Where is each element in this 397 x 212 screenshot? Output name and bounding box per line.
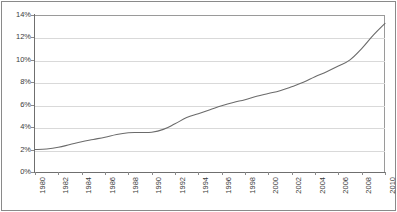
x-axis-tick-mark — [362, 172, 363, 175]
x-axis-tick-mark — [105, 172, 106, 175]
x-axis-tick-mark — [58, 172, 59, 175]
y-axis-tick-mark — [31, 15, 34, 16]
x-axis-tick-mark — [35, 172, 36, 175]
x-axis-tick-mark — [245, 172, 246, 175]
x-axis-tick-mark — [268, 172, 269, 175]
y-axis-tick-mark — [31, 172, 34, 173]
x-axis-tick-mark — [315, 172, 316, 175]
x-axis-tick-mark — [175, 172, 176, 175]
x-axis-tick-mark — [338, 172, 339, 175]
x-axis-tick-mark — [82, 172, 83, 175]
chart-screenshot: 14%12%10%8%6%4%2%0% 19801982198419861988… — [0, 0, 397, 212]
x-axis-tick-mark — [128, 172, 129, 175]
y-axis-tick-mark — [31, 150, 34, 151]
line-series-layer — [0, 0, 397, 212]
y-axis-tick-mark — [31, 60, 34, 61]
x-axis-tick-mark — [198, 172, 199, 175]
line-series-path — [35, 23, 385, 149]
y-axis-tick-mark — [31, 105, 34, 106]
x-axis-tick-mark — [292, 172, 293, 175]
y-axis-tick-mark — [31, 127, 34, 128]
x-axis-tick-mark — [152, 172, 153, 175]
x-axis-tick-mark — [222, 172, 223, 175]
y-axis-tick-mark — [31, 82, 34, 83]
y-axis-tick-mark — [31, 37, 34, 38]
x-axis-tick-mark — [385, 172, 386, 175]
